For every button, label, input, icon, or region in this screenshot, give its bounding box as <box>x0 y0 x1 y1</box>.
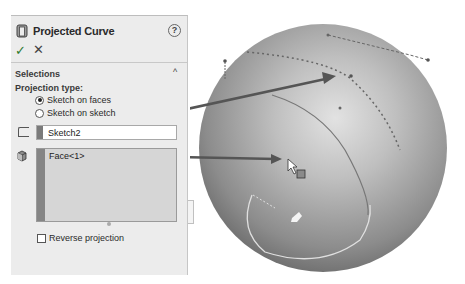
reverse-projection-checkbox-row[interactable]: Reverse projection <box>37 233 124 243</box>
header-divider <box>11 62 187 63</box>
faces-selection-list[interactable]: Face<1> <box>36 148 177 222</box>
selections-section-title[interactable]: Selections <box>15 69 60 79</box>
radio-label: Sketch on sketch <box>47 108 116 118</box>
face-list-item[interactable]: Face<1> <box>49 151 85 161</box>
panel-title: Projected Curve <box>33 25 114 37</box>
panel-header: Projected Curve ? ✓ ✕ <box>11 16 187 62</box>
selection-color-bar <box>37 149 45 221</box>
projection-type-label: Projection type: <box>15 83 83 93</box>
graphics-viewport[interactable] <box>190 0 465 284</box>
property-manager-panel: Projected Curve ? ✓ ✕ Selections ^ Proje… <box>11 15 188 275</box>
sketch-selection-field[interactable]: Sketch2 <box>36 125 177 140</box>
face-icon <box>16 150 28 162</box>
selection-color-bar <box>37 126 43 139</box>
projected-curve-icon <box>16 24 28 38</box>
reverse-projection-checkbox[interactable] <box>37 234 46 243</box>
checkbox-label: Reverse projection <box>49 233 124 243</box>
radio-sketch-on-sketch[interactable]: Sketch on sketch <box>35 108 116 118</box>
help-icon[interactable]: ? <box>168 24 181 37</box>
sketch-icon <box>18 127 29 137</box>
ok-check-icon[interactable]: ✓ <box>15 43 26 58</box>
radio-button-checked[interactable] <box>35 96 44 105</box>
radio-button[interactable] <box>35 109 44 118</box>
sphere-face[interactable] <box>199 24 447 272</box>
radio-sketch-on-faces[interactable]: Sketch on faces <box>35 95 111 105</box>
sphere-scene <box>190 0 465 284</box>
sketch-field-value: Sketch2 <box>48 128 81 138</box>
cancel-x-icon[interactable]: ✕ <box>33 42 44 57</box>
chevron-up-icon[interactable]: ^ <box>173 67 177 77</box>
radio-label: Sketch on faces <box>47 95 111 105</box>
list-resize-handle[interactable] <box>107 222 111 226</box>
